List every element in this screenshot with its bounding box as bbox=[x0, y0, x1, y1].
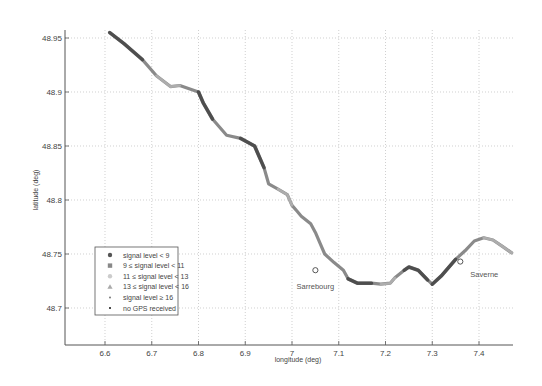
legend: signal level < 99 ≤ signal level < 1111 … bbox=[95, 247, 189, 315]
legend-circle-icon bbox=[108, 253, 112, 257]
route-line bbox=[110, 33, 512, 285]
x-axis-label: longitude (deg) bbox=[275, 356, 322, 364]
x-tick-label: 6.7 bbox=[146, 349, 158, 358]
route-low-signal-segment bbox=[110, 33, 143, 60]
route-high-signal-segment bbox=[484, 238, 512, 253]
route-low-signal-segment bbox=[348, 279, 371, 283]
x-tick-label: 7.4 bbox=[473, 349, 485, 358]
legend-entry-label: no GPS received bbox=[123, 305, 176, 312]
legend-entry-label: 9 ≤ signal level < 11 bbox=[123, 262, 185, 270]
y-tick-label: 48.8 bbox=[46, 196, 62, 205]
city-marker-icon bbox=[313, 268, 318, 273]
y-tick-label: 48.9 bbox=[46, 88, 62, 97]
y-tick-label: 48.7 bbox=[46, 304, 62, 313]
y-tick-label: 48.75 bbox=[42, 250, 63, 259]
route-high-signal-segment bbox=[381, 278, 395, 284]
x-tick-label: 7.1 bbox=[333, 349, 345, 358]
route-high-signal-segment bbox=[156, 76, 179, 87]
legend-circle-icon bbox=[108, 274, 112, 278]
legend-dot-icon bbox=[109, 307, 111, 309]
legend-entry-label: 11 ≤ signal level < 13 bbox=[123, 273, 188, 281]
y-axis-label: latitude (deg) bbox=[32, 170, 40, 211]
route-low-signal-segment bbox=[199, 92, 213, 119]
x-tick-label: 7.2 bbox=[380, 349, 392, 358]
route-low-signal-segment bbox=[241, 138, 264, 167]
x-tick-label: 6.8 bbox=[193, 349, 205, 358]
x-tick-label: 6.9 bbox=[240, 349, 252, 358]
route-low-signal-segment bbox=[404, 267, 427, 280]
x-tick-label: 7.3 bbox=[427, 349, 439, 358]
route-signal-chart: 6.66.76.86.977.17.27.37.448.748.7548.848… bbox=[0, 0, 542, 386]
legend-entry-label: 13 ≤ signal level < 16 bbox=[123, 283, 189, 291]
city-marker-icon bbox=[458, 259, 463, 264]
x-tick-label: 6.6 bbox=[99, 349, 111, 358]
city-label: Sarrebourg bbox=[297, 282, 335, 291]
legend-entry-label: signal level ≥ 16 bbox=[123, 294, 173, 302]
city-label: Saverne bbox=[470, 270, 498, 279]
route-trace bbox=[110, 33, 512, 285]
legend-entry-label: signal level < 9 bbox=[123, 252, 170, 260]
route-low-signal-segment bbox=[432, 259, 455, 284]
legend-dot-icon bbox=[109, 296, 111, 298]
y-tick-label: 48.95 bbox=[42, 34, 63, 43]
legend-square-icon bbox=[108, 263, 112, 267]
y-tick-label: 48.85 bbox=[42, 142, 63, 151]
